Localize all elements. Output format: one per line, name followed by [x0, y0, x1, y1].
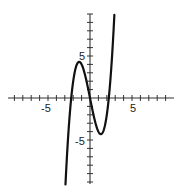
y-tick-label-neg5: -5	[75, 136, 85, 147]
function-plot	[0, 0, 180, 192]
x-tick-label-5: 5	[130, 103, 136, 114]
y-tick-label-5: 5	[79, 51, 85, 62]
x-tick-label-neg5: -5	[41, 103, 51, 114]
